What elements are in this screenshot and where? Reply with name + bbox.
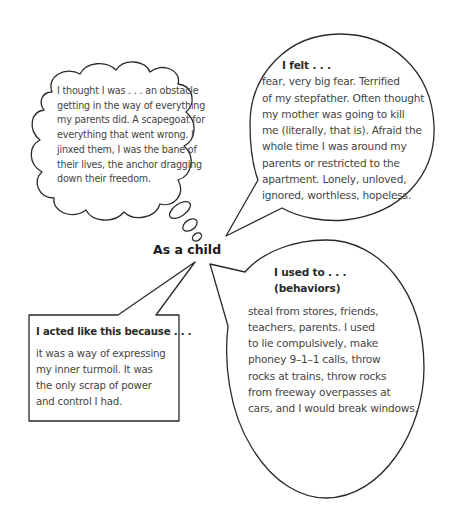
because-heading: I acted like this because . . . [36,324,191,340]
felt-line: ignored, worthless, hopeless. [262,187,424,203]
behaviors-heading: I used to . . . [248,264,418,280]
felt-bubble-text: I felt . . . fear, very big fear. Terrif… [262,57,424,204]
because-line: the only scrap of power [36,378,191,394]
behaviors-line: cars, and I would break windows. [248,400,418,416]
felt-line: apartment. Lonely, unloved, [262,171,424,187]
thought-line: everything that went wrong. I [57,128,205,143]
thought-line: jinxed them, I was the bane of [57,143,205,158]
felt-line: whole time I was around my [262,138,424,154]
because-line: my inner turmoil. It was [36,362,191,378]
felt-line: parents or restricted to the [262,155,424,171]
behaviors-line: to lie compulsively, make [248,335,418,351]
behaviors-line: rocks at trains, throw rocks [248,368,418,384]
center-label: As a child [153,242,221,257]
thought-bubble-text: I thought I was . . . an obstacle gettin… [57,84,205,187]
felt-line: fear, very big fear. Terrified [262,73,424,89]
felt-line: me (literally, that is). Afraid the [262,122,424,138]
thought-line: their lives, the anchor dragging [57,158,205,173]
behaviors-line: from freeway overpasses at [248,384,418,400]
thought-dot-small [191,231,203,242]
thought-line: I thought I was . . . an obstacle [57,84,205,99]
thought-line: my parents did. A scapegoat for [57,113,205,128]
because-box-text: I acted like this because . . . it was a… [36,324,191,410]
felt-line: of my stepfather. Often thought [262,90,424,106]
behaviors-bubble-text: I used to . . . (behaviors) steal from s… [248,264,418,417]
felt-line: my mother was going to kill [262,106,424,122]
because-line: it was a way of expressing [36,346,191,362]
thought-dot-medium [181,216,200,233]
thought-line: down their freedom. [57,172,205,187]
thought-line: getting in the way of everything [57,99,205,114]
behaviors-line: phoney 9–1–1 calls, throw [248,351,418,367]
behaviors-line: teachers, parents. I used [248,319,418,335]
felt-heading: I felt . . . [262,57,424,73]
behaviors-subheading: (behaviors) [248,280,418,296]
behaviors-line: steal from stores, friends, [248,303,418,319]
because-line: and control I had. [36,394,191,410]
